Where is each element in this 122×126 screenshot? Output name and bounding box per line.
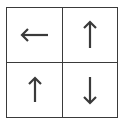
arrow-up-icon xyxy=(83,20,97,50)
arrow-grid xyxy=(6,7,118,118)
grid-cell-4 xyxy=(63,63,117,117)
grid-cell-1 xyxy=(7,8,63,63)
grid-cell-3 xyxy=(7,63,63,117)
arrow-down-icon xyxy=(83,75,97,105)
arrow-left-icon xyxy=(20,28,50,42)
grid-cell-2 xyxy=(63,8,117,63)
arrow-up-icon xyxy=(28,76,42,104)
